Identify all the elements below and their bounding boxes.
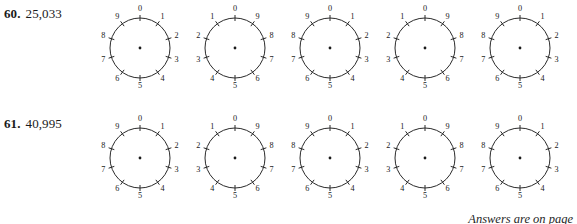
dial-tick-mark: [441, 131, 445, 136]
dial-digit-label: 4: [541, 184, 545, 193]
dial-digit-label: 0: [138, 114, 142, 123]
dial-digit-label: 2: [175, 31, 179, 40]
dial-digit-label: 8: [460, 141, 464, 150]
dial-center-hub: [234, 47, 237, 50]
meter-dial[interactable]: 0123456789: [480, 2, 560, 98]
meter-dial[interactable]: 0123456789: [195, 112, 275, 208]
dial-digit-label: 7: [101, 55, 105, 64]
meter-dial[interactable]: 0123456789: [385, 2, 465, 98]
dial-digit-label: 2: [196, 141, 200, 150]
dial-digit-label: 1: [210, 122, 214, 131]
dial-digit-label: 3: [365, 165, 369, 174]
problem-number: 61.: [4, 116, 21, 131]
dial-digit-label: 1: [400, 122, 404, 131]
dial-digit-label: 1: [161, 122, 165, 131]
dial-digit-label: 9: [115, 122, 119, 131]
dial-tick-mark: [441, 21, 445, 26]
meter-dial[interactable]: 0123456789: [480, 112, 560, 208]
dial-digit-label: 3: [555, 165, 559, 174]
dial-tick-mark: [501, 21, 505, 26]
dial-digit-label: 7: [460, 55, 464, 64]
dial-digit-label: 9: [446, 12, 450, 21]
dial-digit-label: 7: [291, 55, 295, 64]
dial-tick-mark: [536, 131, 540, 136]
dial-digit-label: 6: [446, 74, 450, 83]
dial-digit-label: 4: [541, 74, 545, 83]
dial-group: 0123456789012345678901234567890123456789…: [100, 0, 577, 106]
dial-tick-mark: [406, 70, 410, 75]
dial-digit-label: 7: [291, 165, 295, 174]
dial-digit-label: 8: [291, 31, 295, 40]
dial-digit-label: 8: [101, 141, 105, 150]
dial-digit-label: 3: [175, 165, 179, 174]
dial-digit-label: 4: [161, 184, 165, 193]
dial-digit-label: 4: [210, 74, 214, 83]
dial-digit-label: 1: [541, 12, 545, 21]
dial-group: 0123456789012345678901234567890123456789…: [100, 110, 577, 216]
meter-dial[interactable]: 0123456789: [290, 2, 370, 98]
dial-tick-mark: [501, 70, 505, 75]
dial-tick-mark: [441, 70, 445, 75]
dial-tick-mark: [156, 21, 160, 26]
problem-row: 61.40,9950123456789012345678901234567890…: [0, 110, 577, 218]
dial-digit-label: 0: [518, 114, 522, 123]
dial-digit-label: 0: [328, 4, 332, 13]
dial-tick-mark: [406, 180, 410, 185]
dial-digit-label: 8: [270, 141, 274, 150]
dial-tick-mark: [121, 70, 125, 75]
dial-tick-mark: [156, 131, 160, 136]
dial-digit-label: 9: [495, 12, 499, 21]
dial-digit-label: 2: [175, 141, 179, 150]
meter-dial[interactable]: 0123456789: [100, 2, 180, 98]
dial-digit-label: 9: [305, 122, 309, 131]
dial-center-hub: [519, 157, 522, 160]
dial-digit-label: 4: [351, 74, 355, 83]
dial-tick-mark: [251, 70, 255, 75]
dial-digit-label: 9: [256, 122, 260, 131]
meter-dial[interactable]: 0123456789: [100, 112, 180, 208]
dial-center-hub: [139, 157, 142, 160]
problem-number: 60.: [4, 6, 21, 21]
problem-value: 25,033: [26, 6, 62, 21]
dial-digit-label: 7: [481, 165, 485, 174]
dial-digit-label: 5: [328, 191, 332, 200]
dial-digit-label: 6: [256, 74, 260, 83]
dial-digit-label: 9: [446, 122, 450, 131]
worksheet-page: 60.25,0330123456789012345678901234567890…: [0, 0, 577, 224]
dial-tick-mark: [121, 131, 125, 136]
dial-tick-mark: [251, 131, 255, 136]
dial-tick-mark: [311, 70, 315, 75]
dial-digit-label: 3: [386, 165, 390, 174]
dial-tick-mark: [501, 180, 505, 185]
dial-center-hub: [234, 157, 237, 160]
dial-digit-label: 7: [481, 55, 485, 64]
dial-center-hub: [329, 47, 332, 50]
meter-dial[interactable]: 0123456789: [290, 112, 370, 208]
dial-tick-mark: [536, 21, 540, 26]
dial-tick-mark: [311, 131, 315, 136]
dial-digit-label: 4: [351, 184, 355, 193]
dial-digit-label: 5: [233, 81, 237, 90]
dial-digit-label: 0: [423, 4, 427, 13]
dial-digit-label: 6: [115, 184, 119, 193]
dial-digit-label: 8: [481, 141, 485, 150]
problem-value: 40,995: [26, 116, 62, 131]
dial-digit-label: 7: [270, 55, 274, 64]
meter-dial[interactable]: 0123456789: [195, 2, 275, 98]
dial-tick-mark: [311, 21, 315, 26]
dial-tick-mark: [441, 180, 445, 185]
dial-tick-mark: [251, 21, 255, 26]
dial-digit-label: 8: [481, 31, 485, 40]
dial-digit-label: 0: [138, 4, 142, 13]
dial-digit-label: 3: [386, 55, 390, 64]
dial-digit-label: 1: [351, 12, 355, 21]
dial-digit-label: 8: [270, 31, 274, 40]
meter-dial[interactable]: 0123456789: [385, 112, 465, 208]
dial-center-hub: [139, 47, 142, 50]
dial-tick-mark: [536, 70, 540, 75]
dial-tick-mark: [311, 180, 315, 185]
dial-digit-label: 7: [270, 165, 274, 174]
dial-digit-label: 3: [196, 165, 200, 174]
dial-digit-label: 2: [386, 141, 390, 150]
dial-digit-label: 7: [460, 165, 464, 174]
